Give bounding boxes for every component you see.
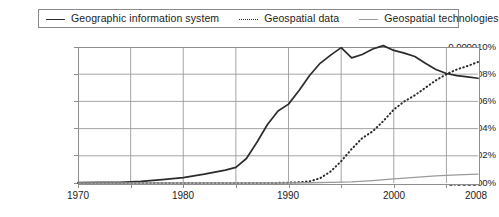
line-solid-icon [46, 14, 65, 24]
x-axis-tick-label: 1990 [266, 190, 310, 201]
legend-label: Geographic information system [71, 13, 219, 24]
x-axis-tick-label: 1980 [161, 190, 205, 201]
x-axis-tick [394, 184, 395, 188]
x-axis-tick [446, 184, 447, 188]
x-axis-tick-label: 2008 [454, 190, 498, 201]
chart-legend: Geographic information system Geospatial… [38, 9, 459, 28]
x-axis-tick [78, 184, 79, 188]
legend-entry-geospatial-technologies[interactable]: Geospatial technologies [359, 13, 498, 24]
data-series-layer [78, 46, 478, 183]
x-axis-tick [236, 184, 237, 188]
legend-entry-geospatial-data[interactable]: Geospatial data [239, 13, 339, 24]
x-axis-tick [289, 184, 290, 188]
legend-label: Geospatial data [264, 13, 339, 24]
legend-entry-geographic-information-system[interactable]: Geographic information system [46, 13, 219, 24]
x-axis-tick-label: 2000 [372, 190, 416, 201]
x-axis-tick [183, 184, 184, 188]
legend-label: Geospatial technologies [384, 13, 498, 24]
line-dotted-icon [239, 14, 258, 24]
plot-canvas [78, 47, 478, 183]
line-thin-icon [359, 14, 378, 24]
series-line-1 [78, 46, 478, 183]
gridlines-vertical [131, 47, 447, 183]
x-axis-tick [341, 184, 342, 188]
x-axis-tick [131, 184, 132, 188]
x-axis-tick-label: 1970 [56, 190, 100, 201]
series-line-2 [78, 62, 478, 183]
gridlines-horizontal [78, 74, 478, 156]
